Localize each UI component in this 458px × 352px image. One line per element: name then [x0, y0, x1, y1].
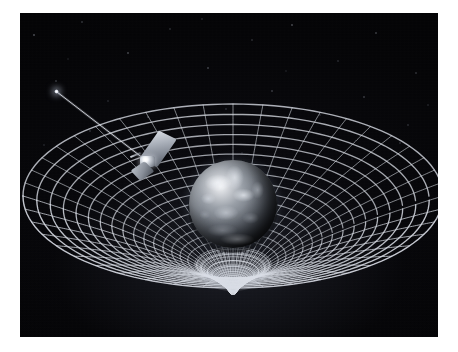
earth-terminator-shading [189, 160, 277, 248]
earth-globe [189, 160, 277, 248]
illustration-canvas [0, 0, 458, 352]
satellite-glint [142, 156, 149, 163]
guide-star-icon [54, 89, 59, 94]
spacetime-illustration [20, 13, 438, 337]
